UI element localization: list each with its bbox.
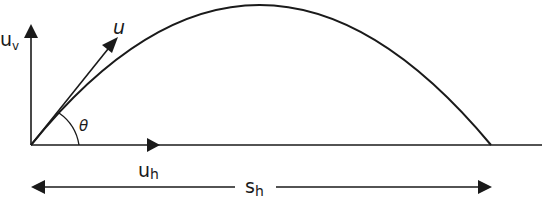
initial-velocity-arrowhead-icon [102,37,118,53]
trajectory-curve [31,5,491,145]
horizontal-range-label: sh [245,175,264,199]
vertical-arrowhead-icon [24,24,38,38]
vertical-velocity-label: uv [0,28,19,53]
range-left-arrowhead-icon [31,180,45,194]
range-right-arrowhead-icon [478,180,492,194]
projectile-diagram: uv u θ uh sh [0,0,542,212]
horizontal-velocity-arrowhead-icon [147,138,160,152]
horizontal-velocity-label: uh [138,159,159,182]
angle-arc [59,113,79,145]
initial-velocity-label: u [113,16,125,38]
angle-label: θ [79,117,88,135]
